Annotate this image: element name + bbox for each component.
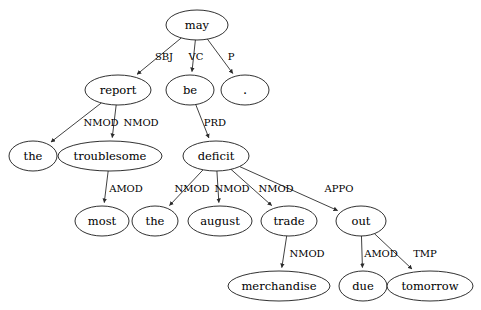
tree-node-be[interactable]: be [166,75,214,105]
edge-label-nmod-merchandise: NMOD [289,248,324,259]
node-label-tomorrow: tomorrow [401,279,458,293]
edge-label-nmod-trade: NMOD [258,183,293,194]
tree-node-tomorrow[interactable]: tomorrow [387,271,473,301]
node-label-may: may [185,18,210,32]
edge-label-nmod-the2: NMOD [174,183,209,194]
node-label-august: august [200,214,240,228]
edge-label-sbj-report: SBJ [155,51,173,62]
edge-label-p-period: P [228,51,235,62]
edge-label-appo-out: APPO [324,183,354,194]
tree-edge-trade-merchandise [282,236,287,268]
edge-label-nmod-august: NMOD [214,183,249,194]
tree-node-out[interactable]: out [336,206,386,236]
edge-label-amod-due: AMOD [363,248,398,259]
tree-node-the1[interactable]: the [9,141,57,171]
node-label-the2: the [146,214,165,228]
node-label-period: . [243,82,247,97]
tree-node-merchandise[interactable]: merchandise [228,271,330,301]
tree-node-august[interactable]: august [188,206,252,236]
tree-node-due[interactable]: due [339,271,387,301]
edge-label-nmod-the1: NMOD [83,117,118,128]
tree-node-the2[interactable]: the [132,206,178,236]
node-label-merchandise: merchandise [241,279,316,293]
tree-node-period[interactable]: . [221,75,269,105]
node-label-out: out [352,214,371,228]
nodes-layer: mayreportbe.thetroublesomedeficitmostthe… [9,10,473,301]
edge-label-nmod-troublesome: NMOD [123,117,158,128]
node-label-the1: the [24,149,43,163]
tree-node-troublesome[interactable]: troublesome [58,141,162,171]
node-label-deficit: deficit [198,149,235,163]
node-label-most: most [88,214,117,228]
tree-edge-out-due [361,236,362,268]
node-label-be: be [183,83,197,97]
dependency-tree-figure: mayreportbe.thetroublesomedeficitmostthe… [0,0,481,310]
edge-label-vc-be: VC [188,51,204,62]
tree-node-deficit[interactable]: deficit [183,141,249,171]
edge-label-prd-deficit: PRD [204,117,226,128]
tree-node-trade[interactable]: trade [261,206,317,236]
node-label-due: due [352,279,374,293]
node-label-report: report [100,83,137,97]
dependency-tree-svg: mayreportbe.thetroublesomedeficitmostthe… [0,0,481,310]
tree-node-may[interactable]: may [166,10,228,40]
tree-node-report[interactable]: report [85,75,151,105]
node-label-trade: trade [273,214,304,228]
edge-label-amod-most: AMOD [108,183,143,194]
edge-label-tmp-tomorrow: TMP [413,248,437,259]
node-label-troublesome: troublesome [74,149,147,163]
tree-node-most[interactable]: most [75,206,129,236]
tree-edge-troublesome-most [104,171,108,203]
